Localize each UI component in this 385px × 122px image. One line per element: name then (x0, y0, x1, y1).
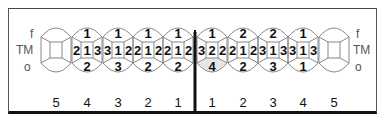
score-top: 1 (208, 26, 215, 41)
tooth-number-left: 1 (174, 95, 181, 110)
score-right: 2 (185, 43, 192, 58)
tooth-diagonal (133, 37, 142, 42)
tooth-diagonal (72, 58, 81, 63)
tooth-diagonal (288, 58, 297, 63)
tooth-number-right: 3 (269, 95, 276, 110)
score-right: 3 (94, 43, 101, 58)
score-top: 1 (174, 26, 181, 41)
score-top: 2 (239, 26, 246, 41)
score-center: 1 (239, 43, 246, 58)
tooth-number-right: 2 (239, 95, 246, 110)
tooth-number-left: 2 (144, 95, 151, 110)
tooth-number-left: 3 (114, 95, 121, 110)
tooth-diagonal (279, 58, 288, 63)
tooth-right-1: 13224 (197, 26, 227, 74)
tooth-diagonal (249, 37, 258, 42)
tooth-diagonal (41, 37, 50, 42)
score-bottom: 4 (208, 59, 216, 74)
label-f-right: f (356, 27, 360, 41)
tooth-diagonal (197, 37, 206, 42)
score-left: 2 (73, 43, 80, 58)
score-bottom: 2 (83, 59, 90, 74)
tooth-diagonal (133, 58, 142, 63)
score-right: 2 (250, 43, 257, 58)
tooth-diagonal (184, 37, 193, 42)
score-left: 2 (164, 43, 171, 58)
score-left: 2 (134, 43, 141, 58)
tooth-diagonal (103, 37, 112, 42)
tooth-outline-bottom (41, 63, 71, 72)
score-right: 3 (280, 43, 287, 58)
tooth-diagonal (228, 58, 237, 63)
tooth-right-3: 23133 (258, 26, 288, 74)
tooth-diagonal (340, 37, 349, 42)
label-o-right: o (355, 60, 362, 74)
tooth-diagonal (228, 37, 237, 42)
tooth-left-1: 12122 (163, 26, 193, 74)
score-center: 1 (114, 43, 121, 58)
score-top: 1 (144, 26, 151, 41)
tooth-diagonal (319, 37, 328, 42)
score-left: 3 (198, 43, 205, 58)
tooth-left-2: 12122 (133, 26, 163, 74)
tooth-number-left: 5 (52, 95, 59, 110)
tooth-outline-bottom (319, 63, 349, 72)
tooth-outline-top (41, 28, 71, 37)
tooth-right-5 (319, 28, 349, 72)
score-top: 2 (269, 26, 276, 41)
label-o-left: o (24, 60, 31, 74)
tooth-number-right: 5 (330, 95, 337, 110)
score-bottom: 3 (114, 59, 121, 74)
label-f-left: f (30, 27, 34, 41)
score-left: 3 (259, 43, 266, 58)
tooth-number-right: 4 (299, 95, 306, 110)
tooth-diagonal (184, 58, 193, 63)
tooth-diagonal (154, 58, 163, 63)
tooth-diagonal (258, 58, 267, 63)
score-center: 1 (83, 43, 90, 58)
score-top: 1 (83, 26, 90, 41)
tooth-diagonal (340, 58, 349, 63)
score-left: 2 (229, 43, 236, 58)
score-top: 1 (299, 26, 306, 41)
tooth-diagonal (279, 37, 288, 42)
tooth-number-left: 4 (83, 95, 90, 110)
tooth-outline-top (319, 28, 349, 37)
tooth-left-3: 13123 (103, 26, 133, 74)
tooth-diagonal (288, 37, 297, 42)
score-center: 1 (299, 43, 306, 58)
score-center: 1 (269, 43, 276, 58)
score-bottom: 3 (269, 59, 276, 74)
score-bottom: 2 (239, 59, 246, 74)
tooth-diagonal (154, 37, 163, 42)
tooth-diagonal (309, 37, 318, 42)
tooth-diagonal (62, 37, 71, 42)
score-center: 2 (208, 43, 215, 58)
tooth-diagonal (72, 37, 81, 42)
tooth-diagonal (258, 37, 267, 42)
tooth-right-2: 22122 (228, 26, 258, 74)
tooth-diagonal (124, 58, 133, 63)
score-bottom: 2 (144, 59, 151, 74)
score-center: 1 (174, 43, 181, 58)
tooth-right-4: 13131 (288, 26, 318, 74)
tooth-left-4: 12132 (72, 26, 102, 74)
score-left: 3 (289, 43, 296, 58)
score-right: 2 (125, 43, 132, 58)
tooth-diagonal (103, 58, 112, 63)
tooth-chart-diagram: f TM o f TM o 12132131231212212122132242… (0, 0, 385, 122)
tooth-diagonal (163, 58, 172, 63)
tooth-left-5 (41, 28, 71, 72)
tooth-number-right: 1 (208, 95, 215, 110)
tooth-diagonal (62, 58, 71, 63)
score-right: 2 (219, 43, 226, 58)
tooth-diagonal (249, 58, 258, 63)
score-right: 2 (155, 43, 162, 58)
score-center: 1 (144, 43, 151, 58)
tooth-diagonal (163, 37, 172, 42)
tooth-diagonal (218, 37, 227, 42)
tooth-diagonal (41, 58, 50, 63)
tooth-center-surface (328, 42, 340, 58)
tooth-diagonal (319, 58, 328, 63)
score-bottom: 2 (174, 59, 181, 74)
